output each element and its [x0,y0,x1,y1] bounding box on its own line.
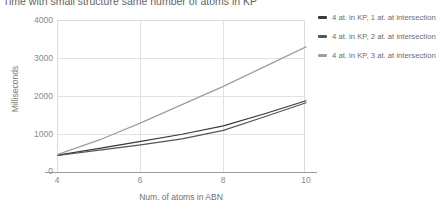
legend-item-label: 4 at. in KP, 1 at. at intersection [332,13,436,22]
series-lines [58,21,306,173]
legend-item[interactable]: 4 at. in KP, 1 at. at intersection [318,12,443,23]
legend-item[interactable]: 4 at. in KP, 2 at. at intersection [318,31,443,42]
plot-area [57,20,305,172]
y-axis-title: Milliseconds [10,34,20,144]
legend-item-label: 4 at. in KP, 2 at. at intersection [332,32,436,41]
legend-item[interactable]: 4 at. in KP, 3 at. at intersection [318,50,443,61]
legend-color-swatch [318,35,327,38]
series-line [58,101,306,155]
x-tick-label: 10 [296,175,316,185]
legend-color-swatch [318,54,327,57]
legend-item-label: 4 at. in KP, 3 at. at intersection [332,51,436,60]
x-tick-label: 6 [130,175,150,185]
chart-legend: 4 at. in KP, 1 at. at intersection 4 at.… [318,12,443,69]
chart-container: Time with small structure same number of… [0,0,443,209]
series-line [58,103,306,156]
legend-color-swatch [318,16,327,19]
x-tick-label: 8 [213,175,233,185]
x-axis-line [45,172,317,173]
x-tick-label: 4 [47,175,67,185]
y-tick-label: 4000 [7,16,53,25]
x-axis-title: Num. of atoms in ABN [57,192,305,202]
